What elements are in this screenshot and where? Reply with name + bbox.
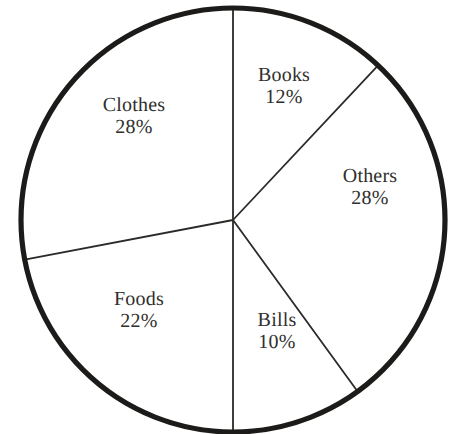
pie-label-foods-value: 22% [114, 310, 164, 332]
pie-label-bills: Bills 10% [258, 309, 297, 354]
pie-label-foods-name: Foods [114, 288, 164, 310]
pie-label-books-name: Books [258, 64, 310, 86]
pie-label-clothes-name: Clothes [103, 94, 166, 116]
pie-chart-svg [0, 0, 451, 434]
pie-label-others: Others 28% [343, 165, 398, 210]
pie-label-clothes-value: 28% [103, 116, 166, 138]
pie-label-bills-name: Bills [258, 309, 297, 331]
pie-chart: Books 12% Others 28% Bills 10% Foods 22%… [0, 0, 451, 434]
pie-label-books-value: 12% [258, 86, 310, 108]
pie-label-others-value: 28% [343, 187, 398, 209]
pie-label-others-name: Others [343, 165, 398, 187]
pie-label-books: Books 12% [258, 64, 310, 109]
pie-label-clothes: Clothes 28% [103, 94, 166, 139]
pie-label-foods: Foods 22% [114, 288, 164, 333]
pie-label-bills-value: 10% [258, 331, 297, 353]
